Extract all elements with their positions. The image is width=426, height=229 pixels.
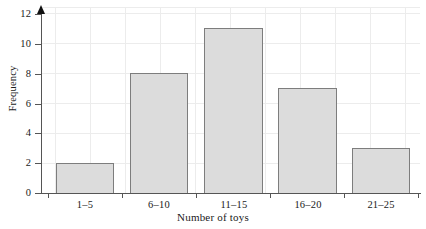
x-tick-boundary xyxy=(418,193,419,198)
y-tick-4 xyxy=(35,133,41,134)
y-tick-10 xyxy=(35,44,41,45)
y-tick-label-12: 12 xyxy=(0,9,31,19)
y-tick-label-2: 2 xyxy=(0,158,31,168)
bar-6-10 xyxy=(130,73,188,194)
x-tick-label-1-5: 1–5 xyxy=(45,199,125,211)
gridline-vertical xyxy=(265,7,266,193)
y-axis-line xyxy=(41,13,42,193)
bar-16-20 xyxy=(278,88,337,194)
x-tick-boundary xyxy=(270,193,271,198)
x-tick-boundary xyxy=(344,193,345,198)
x-axis-title: Number of toys xyxy=(0,211,426,223)
bar-1-5 xyxy=(56,163,114,194)
x-tick-label-11-15: 11–15 xyxy=(194,199,274,211)
x-tick-label-6-10: 6–10 xyxy=(119,199,199,211)
gridline-vertical xyxy=(125,7,126,193)
y-axis-title: Frequency xyxy=(7,34,18,144)
x-tick-boundary xyxy=(196,193,197,198)
gridline-vertical xyxy=(195,7,196,193)
y-tick-0 xyxy=(35,193,41,194)
x-axis-line xyxy=(41,193,421,194)
x-tick-label-16-20: 16–20 xyxy=(268,199,348,211)
y-tick-12 xyxy=(35,14,41,15)
frequency-bar-chart: 0 2 4 6 8 10 12 1–5 6–10 11–15 16–20 21–… xyxy=(0,0,426,229)
bar-21-25 xyxy=(352,148,410,194)
y-tick-2 xyxy=(35,163,41,164)
clipped-header-text xyxy=(60,0,360,1)
x-tick-boundary xyxy=(122,193,123,198)
x-tick-boundary xyxy=(48,193,49,198)
x-tick-label-21-25: 21–25 xyxy=(341,199,421,211)
y-tick-6 xyxy=(35,104,41,105)
bar-11-15 xyxy=(204,28,263,194)
y-tick-label-0: 0 xyxy=(0,188,31,198)
y-tick-8 xyxy=(35,74,41,75)
y-axis-arrow-icon xyxy=(37,5,45,14)
